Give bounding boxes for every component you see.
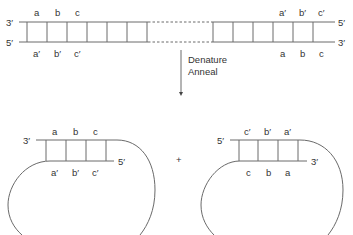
bottom-right-label-b: b — [300, 48, 305, 59]
left-hairpin-rungs — [46, 140, 106, 161]
top-right-label-c-prime: c′ — [318, 7, 325, 18]
right-base-pair-rungs — [213, 22, 313, 42]
left-hairpin: 3′ 5′ a b c a′ b′ c′ — [8, 126, 155, 235]
top-right-3prime-label: 3′ — [338, 37, 345, 48]
left-hairpin-label-c-prime: c′ — [92, 167, 99, 178]
top-right-label-a-prime: a′ — [279, 7, 286, 18]
denature-label: Denature — [188, 54, 227, 65]
plus-sign: + — [176, 154, 182, 165]
right-hairpin-label-c-prime: c′ — [244, 126, 251, 137]
diagram-canvas: 3′ 5′ 5′ 3′ — [0, 0, 353, 235]
top-duplex: 3′ 5′ 5′ 3′ — [6, 7, 345, 59]
left-hairpin-5prime-label: 5′ — [118, 156, 125, 167]
right-hairpin-label-a: a — [285, 167, 291, 178]
top-right-5prime-label: 5′ — [338, 17, 345, 28]
left-hairpin-3prime-label: 3′ — [23, 135, 30, 146]
left-hairpin-top-strand — [36, 140, 155, 235]
top-left-5prime-label: 5′ — [6, 37, 13, 48]
denature-anneal-arrow: Denature Anneal — [179, 50, 227, 96]
left-hairpin-label-a-prime: a′ — [51, 167, 58, 178]
right-hairpin: 5′ 3′ c′ b′ a′ c b a — [201, 126, 343, 235]
left-hairpin-label-b-prime: b′ — [72, 167, 79, 178]
left-base-pair-rungs — [27, 22, 147, 42]
right-hairpin-label-a-prime: a′ — [284, 126, 291, 137]
top-right-label-b-prime: b′ — [299, 7, 306, 18]
bottom-right-label-c: c — [319, 48, 324, 59]
top-left-label-a: a — [34, 7, 40, 18]
bottom-left-label-a-prime: a′ — [33, 48, 40, 59]
top-left-3prime-label: 3′ — [6, 17, 13, 28]
top-left-label-b: b — [55, 7, 60, 18]
right-hairpin-label-b: b — [266, 167, 271, 178]
left-hairpin-label-c: c — [93, 126, 98, 137]
right-hairpin-label-b-prime: b′ — [264, 126, 271, 137]
left-hairpin-label-b: b — [73, 126, 78, 137]
right-hairpin-bottom-strand — [201, 161, 307, 235]
anneal-label: Anneal — [188, 66, 218, 77]
top-left-label-c: c — [75, 7, 80, 18]
right-hairpin-3prime-label: 3′ — [311, 156, 318, 167]
bottom-left-label-c-prime: c′ — [74, 48, 81, 59]
right-hairpin-5prime-label: 5′ — [217, 135, 224, 146]
right-hairpin-top-strand — [230, 140, 343, 235]
bottom-right-label-a: a — [280, 48, 286, 59]
right-hairpin-rungs — [239, 140, 298, 161]
bottom-left-label-b-prime: b′ — [54, 48, 61, 59]
arrow-head-icon — [179, 92, 183, 96]
right-hairpin-label-c: c — [246, 167, 251, 178]
left-hairpin-label-a: a — [52, 126, 58, 137]
